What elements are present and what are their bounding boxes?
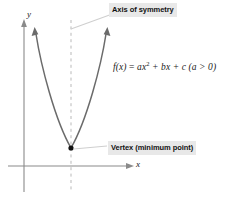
axis-of-symmetry-callout: Axis of symmetry <box>109 3 177 17</box>
equation-quadratic-term: ax <box>137 62 146 72</box>
vertex-point-marker <box>68 145 73 150</box>
parabola-figure: y x Axis of symmetry Vertex (minimum poi… <box>0 0 226 199</box>
x-axis-label: x <box>136 159 140 169</box>
vertex-leader-line <box>74 146 108 149</box>
equation-equals: = <box>129 62 134 72</box>
y-axis-label: y <box>27 9 31 19</box>
vertex-callout: Vertex (minimum point) <box>108 141 196 155</box>
equation-linear-constant-terms: + bx + c <box>152 62 186 72</box>
equation-exponent: 2 <box>146 60 149 67</box>
figure-graphics <box>0 0 226 199</box>
function-equation: f(x) = ax2 + bx + c (a > 0) <box>113 62 216 72</box>
equation-lhs: f(x) <box>113 62 127 72</box>
equation-condition: (a > 0) <box>188 62 216 72</box>
